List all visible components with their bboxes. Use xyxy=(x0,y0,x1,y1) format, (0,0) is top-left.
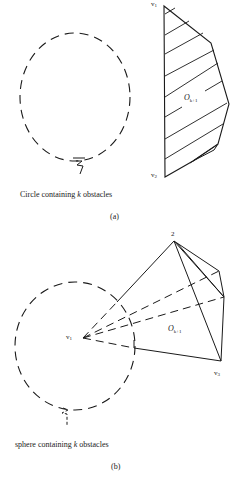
obstacle-subscript: k+1 xyxy=(190,98,198,103)
panel-b-edge-p2-v3 xyxy=(221,297,224,361)
panel-a-vertex-v2-label: v2 xyxy=(151,172,157,179)
caption-text: sphere containing xyxy=(15,440,74,449)
panel-b-drawing xyxy=(15,241,224,425)
caption-text: Circle containing xyxy=(20,190,77,199)
panel-a-center-mark-icon xyxy=(76,161,83,174)
panel-a-tag: (a) xyxy=(110,213,119,221)
panel-b-edge-bottom xyxy=(134,348,221,361)
diagram-canvas xyxy=(0,0,252,477)
panel-a-dashed-circle xyxy=(20,33,130,161)
figure: v1 v2 Ok+1 Circle containing k obstacles… xyxy=(0,0,252,477)
panel-b-edge-apex-v3 xyxy=(174,241,221,361)
panel-b-edge-apex-left xyxy=(117,241,174,302)
panel-a-drawing xyxy=(20,6,229,177)
panel-a-obstacle-label: Ok+1 xyxy=(183,94,199,103)
caption-text: obstacles xyxy=(81,190,112,199)
caption-text: obstacles xyxy=(77,440,108,449)
vertex-subscript: 1 xyxy=(155,3,158,8)
panel-a-caption: Circle containing k obstacles xyxy=(20,191,112,199)
panel-b-vertex-v3-label: v3 xyxy=(214,370,220,377)
vertex-subscript: 3 xyxy=(218,372,221,377)
obstacle-subscript: k+1 xyxy=(174,329,182,334)
panel-b-apex-label: 2 xyxy=(171,231,175,238)
panel-b-obstacle-label: Ok+1 xyxy=(168,325,182,334)
panel-b-dashed-rays xyxy=(83,271,224,348)
panel-b-edge-p1-p2 xyxy=(219,271,224,297)
vertex-subscript: 1 xyxy=(70,336,73,341)
panel-b-center-mark-icon xyxy=(62,408,68,425)
vertex-subscript: 2 xyxy=(155,174,158,179)
panel-b-tag: (b) xyxy=(111,463,120,471)
panel-a-vertex-v1-label: v1 xyxy=(151,1,157,8)
panel-b-dashed-sphere xyxy=(15,282,135,410)
panel-b-vertex-v1-label: v1 xyxy=(66,334,72,341)
panel-b-caption: sphere containing k obstacles xyxy=(15,441,109,449)
